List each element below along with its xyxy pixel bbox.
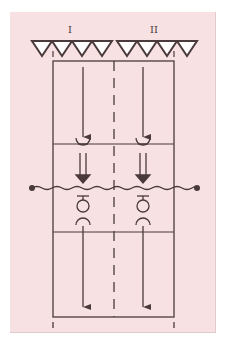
double-arrow-left — [76, 153, 90, 183]
double-arrow-right — [136, 153, 150, 183]
cup-symbol-right — [136, 138, 150, 145]
endpoint-dot-left — [29, 185, 35, 191]
coupling-symbol-left — [76, 196, 90, 232]
column-label-1: I — [68, 24, 72, 35]
coupling-symbol-right — [136, 196, 150, 232]
column-label-2: II — [150, 24, 158, 35]
schematic-diagram: I II — [0, 0, 229, 352]
triangle-row-2 — [117, 41, 197, 56]
cup-symbol-left — [76, 138, 90, 145]
endpoint-dot-right — [194, 185, 200, 191]
triangle-row-1 — [32, 41, 112, 56]
